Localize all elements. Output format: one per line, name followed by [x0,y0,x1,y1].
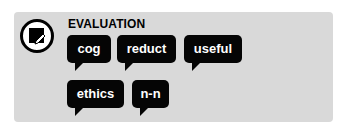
tag-reduct[interactable]: reduct [117,35,176,63]
tag-n-n[interactable]: n-n [132,80,169,108]
evaluation-panel [14,12,333,122]
tag-ethics[interactable]: ethics [67,80,124,108]
edit-note-icon [20,19,54,53]
tag-cog[interactable]: cog [67,35,111,63]
section-title: EVALUATION [68,17,145,31]
tag-useful[interactable]: useful [184,35,242,63]
